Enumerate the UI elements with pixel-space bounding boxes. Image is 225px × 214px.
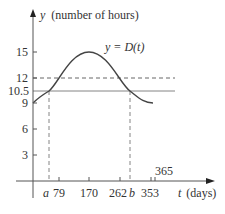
x-tick-label-170: 170 (80, 186, 98, 200)
x-tick-label-365: 365 (155, 164, 173, 178)
x-marker-b: b (129, 186, 135, 200)
x-marker-a: a (43, 186, 49, 200)
curve-label: y = D(t) (104, 40, 144, 54)
y-tick-label-12: 12 (16, 71, 28, 85)
curve-d-of-t (33, 52, 153, 103)
x-tick-label-353: 353 (141, 186, 159, 200)
y-tick-label-9: 9 (22, 96, 28, 110)
x-tick-label-262: 262 (109, 186, 127, 200)
y-ticks (33, 52, 37, 155)
y-tick-label-6: 6 (22, 122, 28, 136)
x-ticks (59, 177, 155, 181)
y-axis-arrow-icon (30, 9, 36, 17)
y-axis-label: y (number of hours) (39, 8, 139, 22)
x-axis-arrow-icon (206, 178, 215, 184)
x-tick-label-79: 79 (53, 186, 65, 200)
y-tick-label-15: 15 (16, 45, 28, 59)
y-tick-label-3: 3 (22, 148, 28, 162)
chart: 15 12 10.5 9 6 3 a 79 170 262 b 353 365 … (0, 0, 225, 214)
x-axis-label: t (days) (178, 186, 216, 200)
